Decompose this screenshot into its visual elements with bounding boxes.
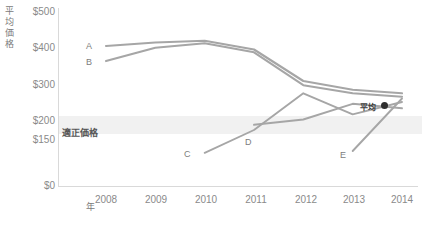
average-label: 平均: [360, 101, 376, 112]
series-label-c: C: [184, 149, 191, 159]
series-label-a: A: [86, 41, 92, 51]
series-label-b: B: [86, 57, 92, 67]
series-label-d: D: [245, 137, 252, 147]
series-label-e: E: [340, 150, 346, 160]
price-trend-chart: 平均価格 適正価格 $500 $400 $300 $200 $150 $0 20…: [0, 0, 422, 228]
average-marker-dot: [381, 102, 388, 109]
series-lines: [0, 0, 422, 228]
series-line-b: [106, 43, 402, 97]
